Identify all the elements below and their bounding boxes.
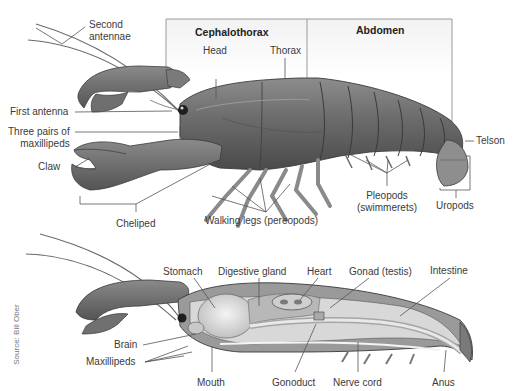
label-line: (swimmerets)	[357, 202, 417, 214]
label-head: Head	[203, 45, 227, 57]
label-brain: Brain	[114, 339, 137, 351]
region-cephalothorax: Cephalothorax	[195, 26, 269, 38]
label-line: maxillipeds	[8, 138, 70, 150]
label-mouth: Mouth	[197, 377, 225, 389]
label-nerve-cord: Nerve cord	[333, 377, 382, 389]
label-first-antenna: First antenna	[10, 106, 68, 118]
label-line: antennae	[89, 31, 131, 43]
label-anus: Anus	[432, 377, 455, 389]
label-claw: Claw	[38, 161, 60, 173]
label-digestive-gland: Digestive gland	[218, 266, 286, 278]
region-abdomen: Abdomen	[356, 24, 404, 36]
label-gonoduct: Gonoduct	[272, 377, 315, 389]
label-walking-legs: Walking legs (pereopods)	[205, 215, 318, 227]
label-second-antennae: Second antennae	[89, 19, 131, 43]
label-uropods: Uropods	[436, 200, 474, 212]
label-line: Pleopods	[357, 190, 417, 202]
label-heart: Heart	[307, 266, 331, 278]
label-stomach: Stomach	[163, 266, 202, 278]
image-credit: Source: Bill Ober	[12, 304, 21, 364]
label-telson: Telson	[476, 135, 505, 147]
label-intestine: Intestine	[430, 265, 468, 277]
lower-cheliped	[72, 139, 222, 190]
label-line: Second	[89, 19, 131, 31]
upper-claw-bottom	[76, 280, 189, 334]
pleopods	[346, 156, 410, 170]
label-maxillipeds-bottom: Maxillipeds	[86, 356, 135, 368]
label-gonad: Gonad (testis)	[349, 266, 412, 278]
label-thorax: Thorax	[270, 45, 301, 57]
label-cheliped: Cheliped	[116, 218, 155, 230]
label-pleopods: Pleopods (swimmerets)	[357, 190, 417, 214]
label-maxillipeds-top: Three pairs of maxillipeds	[8, 126, 70, 150]
lobster-body	[178, 78, 468, 186]
crayfish-illustration	[0, 0, 516, 391]
label-line: Three pairs of	[8, 126, 70, 138]
